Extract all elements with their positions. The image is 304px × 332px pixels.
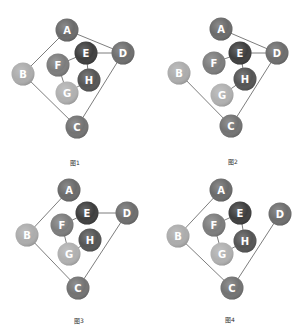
node-label: B: [174, 231, 182, 242]
node-d: D: [269, 203, 292, 226]
node-label: E: [84, 208, 91, 219]
node-label: A: [217, 185, 225, 196]
node-label: C: [228, 283, 235, 294]
node-a: A: [58, 179, 81, 202]
node-d: D: [116, 202, 139, 225]
node-a: A: [210, 18, 233, 41]
node-label: B: [23, 230, 31, 241]
node-d: D: [266, 42, 289, 65]
node-layer: ABCDEFGH: [168, 18, 289, 138]
node-label: E: [83, 48, 90, 59]
node-c: C: [66, 116, 89, 139]
node-label: A: [63, 25, 71, 36]
node-b: B: [16, 224, 39, 247]
node-e: E: [229, 202, 252, 225]
node-label: H: [241, 74, 249, 85]
node-label: F: [211, 220, 218, 231]
node-e: E: [76, 202, 99, 225]
node-label: H: [241, 236, 249, 247]
node-label: E: [237, 48, 244, 59]
node-f: F: [203, 214, 226, 237]
node-label: F: [59, 220, 66, 231]
graph-diagrams-canvas: ABCDEFGH 图1 ABCDEFGH 图2 ABCDEFGH 图3 ABCD…: [0, 0, 304, 332]
node-label: A: [217, 24, 225, 35]
node-h: H: [78, 69, 101, 92]
node-label: G: [218, 90, 226, 101]
node-b: B: [168, 62, 191, 85]
figure-caption: 图3: [74, 317, 84, 325]
node-e: E: [229, 42, 252, 65]
node-layer: ABCDEFGH: [16, 179, 139, 300]
node-b: B: [167, 225, 190, 248]
node-b: B: [12, 63, 35, 86]
node-label: G: [218, 249, 226, 260]
node-label: H: [85, 75, 93, 86]
node-d: D: [112, 42, 135, 65]
edge-c-d: [232, 214, 280, 288]
node-h: H: [79, 229, 102, 252]
node-label: C: [74, 283, 81, 294]
edge-layer: [179, 29, 277, 126]
diagram-3: ABCDEFGH 图3: [16, 179, 139, 326]
node-f: F: [51, 214, 74, 237]
node-label: F: [55, 60, 62, 71]
node-g: G: [56, 82, 79, 105]
node-label: F: [211, 58, 218, 69]
node-label: G: [63, 88, 71, 99]
node-c: C: [221, 277, 244, 300]
node-layer: ABCDEFGH: [167, 179, 292, 300]
node-g: G: [211, 84, 234, 107]
figure-caption: 图1: [70, 159, 80, 167]
node-a: A: [210, 179, 233, 202]
figure-caption: 图2: [228, 158, 238, 166]
node-c: C: [67, 277, 90, 300]
diagram-4: ABCDEFGH 图4: [167, 179, 292, 325]
node-label: C: [227, 121, 234, 132]
diagram-1: ABCDEFGH 图1: [12, 19, 135, 168]
node-label: B: [175, 68, 183, 79]
node-layer: ABCDEFGH: [12, 19, 135, 139]
node-e: E: [75, 42, 98, 65]
node-label: A: [65, 185, 73, 196]
node-label: H: [86, 235, 94, 246]
node-a: A: [56, 19, 79, 42]
node-label: B: [19, 69, 27, 80]
node-f: F: [203, 52, 226, 75]
node-h: H: [234, 68, 257, 91]
edge-layer: [23, 30, 123, 127]
node-label: E: [237, 208, 244, 219]
edge-layer: [178, 190, 280, 288]
node-g: G: [58, 243, 81, 266]
node-f: F: [47, 54, 70, 77]
diagram-2: ABCDEFGH 图2: [168, 18, 289, 167]
node-g: G: [211, 243, 234, 266]
node-label: C: [73, 122, 80, 133]
node-c: C: [220, 115, 243, 138]
node-label: D: [276, 209, 284, 220]
edge-layer: [27, 190, 127, 288]
figure-caption: 图4: [225, 316, 235, 324]
node-h: H: [234, 230, 257, 253]
node-label: D: [123, 208, 131, 219]
node-label: G: [65, 249, 73, 260]
node-label: D: [119, 48, 127, 59]
node-label: D: [273, 48, 281, 59]
